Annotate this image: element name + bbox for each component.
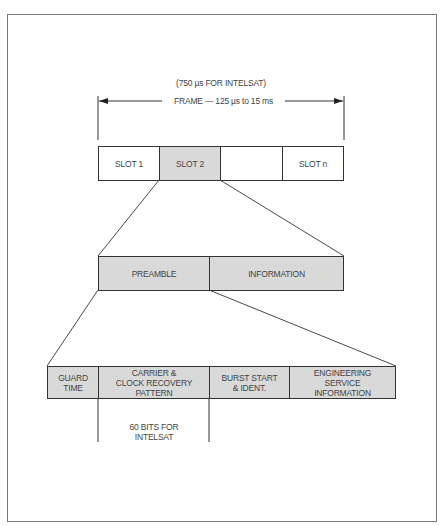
frame-note: (750 µs FOR INTELSAT) [160, 78, 282, 88]
frame-label: FRAME — 125 µs to 15 ms [163, 96, 284, 106]
arrow-left-icon [99, 98, 108, 104]
slot-2: SLOT 2 [159, 146, 221, 181]
preamble-box: PREAMBLE [98, 256, 210, 291]
carrier-clock-recovery-box: CARRIER & CLOCK RECOVERY PATTERN [98, 366, 210, 399]
arrow-right-icon [334, 98, 343, 104]
slot-empty [220, 146, 283, 181]
slot-1: SLOT 1 [98, 146, 160, 181]
engineering-service-info-box: ENGINEERING SERVICE INFORMATION [289, 366, 396, 399]
burst-start-ident-box: BURST START & IDENT. [209, 366, 290, 399]
guard-time-box: GUARD TIME [47, 366, 99, 399]
bits-note: 60 BITS FOR INTELSAT [118, 422, 190, 442]
information-box: INFORMATION [209, 256, 344, 291]
slot-n: SLOT n [282, 146, 344, 181]
